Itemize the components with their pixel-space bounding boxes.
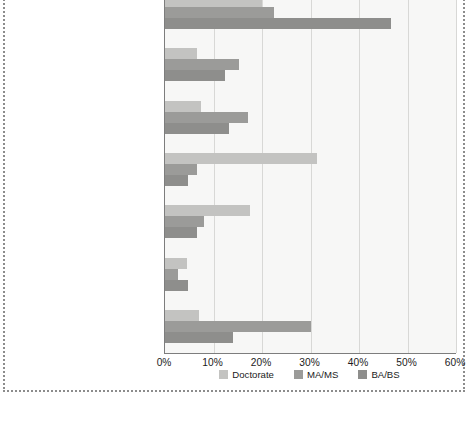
bar	[165, 101, 201, 112]
legend-label: MA/MS	[307, 369, 338, 380]
x-tick-label: 10%	[202, 357, 222, 368]
bar	[165, 112, 248, 123]
bar	[165, 269, 178, 280]
gridline-10	[214, 0, 215, 353]
bar	[165, 123, 229, 134]
bar	[165, 310, 199, 321]
bar	[165, 332, 233, 343]
x-tick-label: 40%	[348, 357, 368, 368]
gridline-30	[311, 0, 312, 353]
gridline-20	[262, 0, 263, 353]
x-tick-label: 50%	[396, 357, 416, 368]
x-tick-label: 20%	[251, 357, 271, 368]
legend-item-babs[interactable]: BA/BS	[358, 369, 399, 380]
bar	[165, 18, 391, 29]
bar	[165, 227, 197, 238]
bar	[165, 258, 187, 269]
legend-label: Doctorate	[232, 369, 274, 380]
bar	[165, 216, 204, 227]
legend-swatch-icon	[219, 370, 228, 379]
x-tick-label: 60%	[445, 357, 465, 368]
bar	[165, 321, 311, 332]
bar	[165, 7, 274, 18]
gridline-50	[408, 0, 409, 353]
legend-swatch-icon	[358, 370, 367, 379]
bar	[165, 164, 197, 175]
bar	[165, 175, 188, 186]
x-tick-label: 0%	[157, 357, 172, 368]
legend-item-doctorate[interactable]: Doctorate	[219, 369, 274, 380]
bar	[165, 70, 225, 81]
gridline-40	[359, 0, 360, 353]
bar	[165, 205, 250, 216]
bar	[165, 153, 317, 164]
bar	[165, 280, 188, 291]
chart-legend: DoctorateMA/MSBA/BS	[164, 369, 455, 380]
bar	[165, 59, 239, 70]
plot-area	[164, 0, 456, 354]
legend-swatch-icon	[294, 370, 303, 379]
bar	[165, 0, 262, 7]
grouped-bar-chart: For-profit companiesState or local gover…	[0, 0, 473, 436]
bar	[165, 48, 197, 59]
legend-label: BA/BS	[371, 369, 399, 380]
gridline-60	[456, 0, 457, 353]
legend-item-mams[interactable]: MA/MS	[294, 369, 338, 380]
x-tick-label: 30%	[299, 357, 319, 368]
